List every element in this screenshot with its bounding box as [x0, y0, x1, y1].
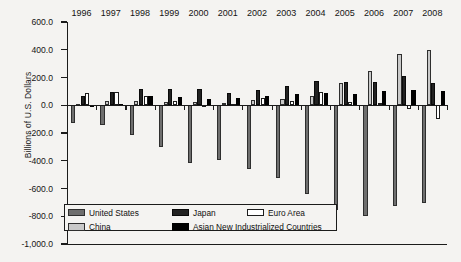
- bar: [130, 105, 134, 135]
- bar: [247, 105, 251, 169]
- bar: [368, 71, 372, 106]
- bar: [217, 105, 221, 160]
- y-tick: [61, 21, 67, 22]
- y-tick-label: -800.0: [29, 211, 53, 221]
- bar: [393, 105, 397, 206]
- us-swatch: [68, 209, 85, 217]
- bar: [427, 50, 431, 106]
- bar: [363, 105, 367, 216]
- chart-legend: United States Japan Euro Area China Asia…: [64, 204, 337, 231]
- bar: [339, 83, 343, 105]
- bar: [397, 54, 401, 106]
- bar: [276, 105, 280, 177]
- legend-label-japan: Japan: [193, 209, 216, 217]
- china-swatch: [68, 223, 85, 231]
- x-tick-label: 1996: [72, 8, 92, 18]
- x-axis-bottom-line: [67, 244, 447, 245]
- x-tick-label: 2002: [247, 8, 267, 18]
- x-tick-label: 2006: [364, 8, 384, 18]
- legend-label-united-states: United States: [89, 209, 139, 217]
- japan-swatch: [172, 209, 189, 217]
- bar: [71, 105, 75, 122]
- y-axis-title: Billions of U.S. Dollars: [23, 35, 33, 195]
- legend-row-2: China Asian New Industrialized Countries: [68, 222, 333, 234]
- x-tick-label: 2001: [218, 8, 238, 18]
- zero-baseline: [67, 105, 447, 106]
- bar: [422, 105, 426, 203]
- bar: [100, 105, 104, 124]
- legend-row-1: United States Japan Euro Area: [68, 207, 333, 219]
- x-tick-label: 2008: [422, 8, 442, 18]
- bar: [227, 93, 231, 105]
- legend-label-china: China: [89, 223, 111, 231]
- x-tick-label: 1998: [130, 8, 150, 18]
- y-tick-label: -400.0: [29, 156, 53, 166]
- y-tick-label: 600.0: [31, 17, 53, 27]
- chart-figure: Billions of U.S. Dollars 600.0400.0200.0…: [0, 0, 461, 262]
- y-tick: [61, 77, 67, 78]
- legend-label-euro-area: Euro Area: [268, 209, 305, 217]
- y-tick-label: 0.0: [41, 100, 53, 110]
- legend-item-united-states: United States: [68, 209, 172, 217]
- euro-swatch: [247, 209, 264, 217]
- bar: [139, 89, 143, 106]
- x-tick-label: 2004: [305, 8, 325, 18]
- x-tick-label: 2003: [276, 8, 296, 18]
- legend-item-china: China: [68, 223, 172, 231]
- x-tick-label: 1999: [159, 8, 179, 18]
- bar: [256, 90, 260, 106]
- bar: [319, 92, 323, 105]
- bar: [402, 76, 406, 105]
- legend-item-japan: Japan: [172, 209, 247, 217]
- bar: [114, 92, 118, 105]
- bar: [159, 105, 163, 147]
- bar: [441, 91, 445, 105]
- bar: [324, 93, 328, 105]
- bar: [188, 105, 192, 163]
- x-tick-label: 2007: [393, 8, 413, 18]
- y-tick: [61, 188, 67, 189]
- bar: [334, 105, 338, 210]
- bar: [197, 89, 201, 106]
- bar: [344, 82, 348, 105]
- bar: [110, 92, 114, 105]
- y-tick: [61, 132, 67, 133]
- bar: [436, 105, 440, 119]
- bar: [353, 94, 357, 105]
- x-tick-label: 2005: [335, 8, 355, 18]
- y-tick: [61, 49, 67, 50]
- bar: [168, 89, 172, 105]
- x-tick-label: 1997: [101, 8, 121, 18]
- y-tick-label: 200.0: [31, 73, 53, 83]
- anic-swatch: [172, 223, 189, 231]
- y-tick: [61, 243, 67, 244]
- bar: [431, 83, 435, 105]
- x-tick-label: 2000: [189, 8, 209, 18]
- bar: [295, 94, 299, 105]
- bar: [314, 81, 318, 105]
- bar: [285, 86, 289, 105]
- bar: [85, 93, 89, 105]
- bar: [305, 105, 309, 194]
- y-tick-label: 400.0: [31, 45, 53, 55]
- y-tick-label: -1,000.0: [21, 239, 53, 249]
- bar: [411, 90, 415, 105]
- x-tick: [447, 105, 448, 110]
- bar: [373, 82, 377, 106]
- y-tick-label: -200.0: [29, 128, 53, 138]
- legend-label-asian-nics: Asian New Industrialized Countries: [193, 223, 322, 231]
- y-tick: [61, 160, 67, 161]
- y-tick-label: -600.0: [29, 184, 53, 194]
- bar: [382, 91, 386, 105]
- legend-item-euro-area: Euro Area: [247, 209, 305, 217]
- legend-item-asian-nics: Asian New Industrialized Countries: [172, 223, 322, 231]
